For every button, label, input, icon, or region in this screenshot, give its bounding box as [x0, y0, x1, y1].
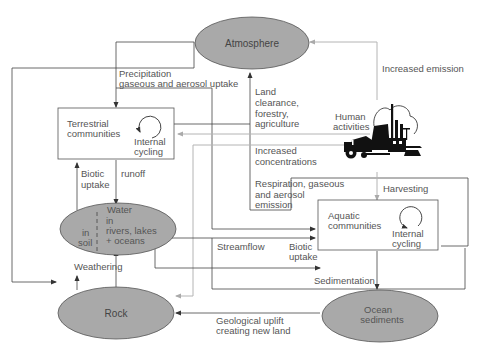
terrestrial-cycle-2: cycling — [134, 146, 163, 157]
label-geological-uplift-2: creating new land — [216, 325, 290, 336]
label-streamflow: Streamflow — [217, 241, 265, 252]
water-soil-2: soil — [78, 237, 92, 248]
water-title: Water — [107, 204, 132, 215]
water-line-3: + oceans — [106, 235, 145, 246]
aquatic-label-2: communities — [328, 220, 382, 231]
label-sedimentation: Sedimentation — [314, 275, 375, 286]
label-land-4: agriculture — [255, 118, 299, 129]
human-label-2: activities — [333, 121, 370, 132]
label-increased-concentrations-1: Increased — [255, 145, 297, 156]
atmosphere-label: Atmosphere — [225, 38, 279, 49]
label-precipitation-2: gaseous and aerosol uptake — [119, 78, 238, 89]
label-land-1: Land — [255, 86, 276, 97]
label-land-2: clearance, — [255, 97, 299, 108]
rock-label: Rock — [105, 308, 129, 319]
label-runoff: runoff — [121, 168, 145, 179]
label-increased-concentrations-2: concentrations — [255, 156, 317, 167]
aquatic-cycle-2: cycling — [392, 238, 421, 249]
label-biotic-uptake-terrestrial-2: uptake — [81, 179, 110, 190]
label-biotic-uptake-terrestrial-1: Biotic — [81, 168, 104, 179]
terrestrial-label-2: communities — [67, 128, 121, 139]
label-respiration-3: emission — [255, 199, 293, 210]
label-biotic-uptake-aquatic-2: uptake — [289, 251, 318, 262]
label-weathering: Weathering — [74, 261, 122, 272]
label-increased-emission: Increased emission — [382, 63, 464, 74]
label-harvesting: Harvesting — [383, 183, 428, 194]
ocean-label-2: sediments — [360, 314, 404, 325]
edge-increased-emission — [310, 42, 377, 100]
label-respiration-1: Respiration, gaseous — [255, 178, 344, 189]
nutrient-cycle-diagram: Atmosphere Terrestrial communities Inter… — [0, 0, 484, 351]
